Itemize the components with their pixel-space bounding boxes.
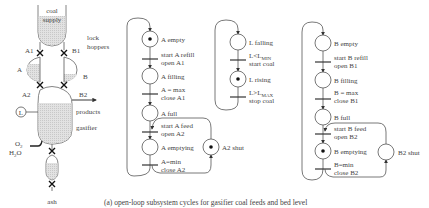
transition-label: open A2 xyxy=(161,130,185,138)
coal-supply-vessel: coal supply xyxy=(38,5,66,46)
place-b-full xyxy=(315,109,331,125)
place-label: A empty xyxy=(161,36,185,44)
transition-label: B=min xyxy=(334,161,354,169)
transition-label: start B refill xyxy=(334,54,368,62)
valve-a2-label: A2 xyxy=(22,91,31,99)
ash-valve-bottom-icon xyxy=(49,181,55,187)
plant-schematic: coal supply lock hoppers A1 B1 A B xyxy=(9,5,109,206)
hopper-b-label: B xyxy=(83,73,88,81)
valve-b1-label: B1 xyxy=(72,47,81,55)
place-l-falling xyxy=(230,34,246,50)
place-a-filling xyxy=(142,68,158,84)
place-label: A full xyxy=(161,110,177,118)
figure-caption: (a) open-loop subsystem cycles for gasif… xyxy=(104,198,307,207)
transition-label: open A1 xyxy=(161,59,185,67)
place-b-emptying xyxy=(315,143,331,159)
hopper-a-label: A xyxy=(17,66,22,74)
transition-label: open B2 xyxy=(334,133,358,141)
place-label: L falling xyxy=(249,39,274,47)
token-icon xyxy=(236,77,240,81)
hopper-b xyxy=(64,57,77,82)
petri-net-a: A empty A filling A full A emptying A2 s… xyxy=(127,18,244,176)
transition-label: close B1 xyxy=(334,97,359,105)
place-a-full xyxy=(142,105,158,121)
transition-label: A = max xyxy=(161,86,186,94)
lock-hoppers-label-2: hoppers xyxy=(87,43,109,51)
place-l-rising xyxy=(230,71,246,87)
transition-label: A=min xyxy=(161,158,181,166)
place-label: B empty xyxy=(334,40,358,48)
transition-label: close A2 xyxy=(161,166,186,174)
ash-hopper xyxy=(46,155,58,180)
petri-net-l: L falling L rising L<LMIN start coal L>L… xyxy=(215,20,275,110)
place-label: B filling xyxy=(334,77,358,85)
place-label: A2 shut xyxy=(222,144,244,152)
coal-supply-label-2: supply xyxy=(43,16,62,24)
valve-b2-icon xyxy=(61,82,67,88)
transition-label: open B1 xyxy=(334,62,358,70)
transition-label: start A feed xyxy=(161,122,193,130)
transition-label: start coal xyxy=(249,60,275,68)
h2o-label: H2O xyxy=(9,149,22,158)
valve-b1-icon xyxy=(61,50,67,56)
transition-label: close A1 xyxy=(161,94,186,102)
transition-label: close B2 xyxy=(334,169,359,177)
hopper-a xyxy=(27,57,40,82)
transition-label: start A refill xyxy=(161,51,194,59)
transition-label: stop coal xyxy=(249,97,274,105)
place-a2-shut xyxy=(203,139,219,155)
diagram-canvas: coal supply lock hoppers A1 B1 A B xyxy=(0,0,429,208)
place-label: B emptying xyxy=(334,148,367,156)
place-label: B2 shut xyxy=(398,149,420,157)
place-b-empty xyxy=(315,35,331,51)
valve-a1-label: A1 xyxy=(25,47,34,55)
place-a-emptying xyxy=(142,139,158,155)
place-a-empty xyxy=(142,31,158,47)
token-icon xyxy=(209,145,213,149)
gasifier-label: gasifier xyxy=(76,124,98,132)
coal-supply-label: coal xyxy=(46,7,58,15)
place-b-filling xyxy=(315,72,331,88)
token-icon xyxy=(148,37,152,41)
o2-h2o-inlet-arrow xyxy=(30,141,42,146)
transition-label: start B feed xyxy=(334,125,367,133)
ash-label: ash xyxy=(47,198,57,206)
valve-a2-icon xyxy=(37,82,43,88)
place-b2-shut xyxy=(378,144,394,160)
valve-b2-label: B2 xyxy=(79,91,88,99)
valve-a1-icon xyxy=(37,50,43,56)
svg-text:L: L xyxy=(19,109,23,117)
token-icon xyxy=(321,149,325,153)
place-label: B full xyxy=(334,114,350,122)
transition-label: B = max xyxy=(334,89,359,97)
level-sensor-icon: L xyxy=(16,107,38,117)
place-label: A emptying xyxy=(161,144,194,152)
place-label: L rising xyxy=(249,76,271,84)
o2-label: O2 xyxy=(15,140,23,149)
petri-net-b: B empty B filling B full B emptying B2 s… xyxy=(302,22,420,180)
place-label: A filling xyxy=(161,73,185,81)
gasifier-vessel xyxy=(38,87,72,145)
lock-hoppers-label: lock xyxy=(87,34,100,42)
products-label: products xyxy=(76,108,100,116)
